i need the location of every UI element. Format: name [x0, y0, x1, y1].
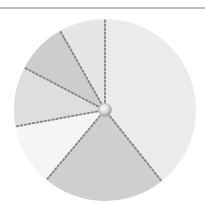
center-knob-icon — [99, 104, 112, 117]
pie-chart — [0, 0, 205, 216]
